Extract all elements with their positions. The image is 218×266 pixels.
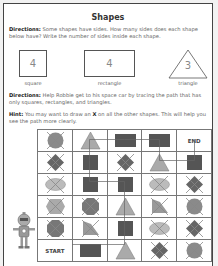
maze-cell-octagon-x[interactable] xyxy=(72,196,107,218)
maze-cell-square[interactable] xyxy=(72,174,107,196)
triangle-shape-icon xyxy=(108,240,143,261)
maze-cell-rectangle[interactable] xyxy=(72,240,107,262)
maze-cell-hexagon-x[interactable] xyxy=(38,196,73,218)
rectangle-sides: 4 xyxy=(106,58,112,69)
start-label: START xyxy=(38,240,72,261)
maze-cell-diamond-x[interactable] xyxy=(107,152,142,174)
diamond-shape-icon xyxy=(177,174,212,195)
circle-shape-icon xyxy=(177,240,212,261)
hint-label: Hint: xyxy=(9,111,23,117)
maze-row xyxy=(38,218,212,240)
square-answer-box[interactable]: 4 xyxy=(19,50,47,77)
diamond-shape-icon xyxy=(108,152,143,173)
directions-maze: Directions: Help Robbie get to his space… xyxy=(9,92,209,105)
maze-cell-diamond-x[interactable] xyxy=(142,240,177,262)
page-title: Shapes xyxy=(4,13,212,22)
maze-cell-circle-x[interactable] xyxy=(177,240,212,262)
diamond-shape-icon xyxy=(142,240,177,261)
maze-row xyxy=(38,174,212,196)
maze-row xyxy=(38,152,212,174)
end-label: END xyxy=(177,130,211,151)
square-shape-icon xyxy=(73,152,108,173)
maze-cell-rectangle[interactable] xyxy=(107,130,142,152)
hint-text: You may want to draw an xyxy=(23,111,92,117)
maze-cell-oval-x[interactable] xyxy=(38,174,73,196)
rectangle-answer-box[interactable]: 4 xyxy=(84,50,135,77)
maze-cell-square[interactable] xyxy=(72,152,107,174)
oval-shape-icon xyxy=(142,174,177,195)
maze-cell-circle-x[interactable] xyxy=(38,130,73,152)
maze-cell-oval-x[interactable] xyxy=(142,174,177,196)
square-shape-icon xyxy=(177,152,212,173)
rectangle-shape-icon xyxy=(73,240,108,261)
rectangle-label: rectangle xyxy=(84,80,135,86)
trapezoid-shape-icon xyxy=(142,196,177,217)
hexagon-shape-icon xyxy=(38,196,73,217)
diamond-shape-icon xyxy=(177,218,212,239)
square-shape-icon xyxy=(73,174,108,195)
triangle-sides: 3 xyxy=(168,60,208,71)
maze-cell-circle-x[interactable] xyxy=(177,196,212,218)
maze-row: END xyxy=(38,130,212,152)
triangle-shape-icon xyxy=(108,196,143,217)
maze-cell-triangle[interactable] xyxy=(72,130,107,152)
maze-cell-end[interactable]: END xyxy=(177,130,212,152)
maze-cell-diamond-x[interactable] xyxy=(177,218,212,240)
triangle-label: triangle xyxy=(168,80,208,86)
maze-cell-trapezoid-x[interactable] xyxy=(142,196,177,218)
maze-grid: ENDSTART xyxy=(37,129,212,255)
oval-shape-icon xyxy=(38,174,73,195)
maze-cell-triangle[interactable] xyxy=(142,152,177,174)
circle-shape-icon xyxy=(38,130,73,151)
directions-label: Directions: xyxy=(9,92,41,98)
square-label: square xyxy=(14,80,52,86)
maze-cell-start[interactable]: START xyxy=(38,240,73,262)
square-shape-icon xyxy=(108,218,143,239)
triangle-shape-icon xyxy=(73,130,108,151)
maze-row: START xyxy=(38,240,212,262)
maze-cell-rectangle[interactable] xyxy=(142,130,177,152)
maze-row xyxy=(38,196,212,218)
maze-cell-triangle[interactable] xyxy=(107,196,142,218)
robbie-robot-icon xyxy=(12,212,36,250)
maze-cell-octagon-x[interactable] xyxy=(38,218,73,240)
maze-cell-triangle[interactable] xyxy=(107,240,142,262)
worksheet-page: Shapes Directions: Some shapes have side… xyxy=(3,3,213,266)
square-sides: 4 xyxy=(30,58,36,69)
maze-cell-square[interactable] xyxy=(177,152,212,174)
trapezoid-shape-icon xyxy=(73,218,108,239)
directions-label: Directions: xyxy=(9,26,41,32)
maze-cell-square[interactable] xyxy=(107,218,142,240)
maze-cell-oval-x[interactable] xyxy=(142,218,177,240)
maze-cell-square[interactable] xyxy=(107,174,142,196)
diamond-shape-icon xyxy=(38,152,73,173)
triangle-shape-icon xyxy=(142,152,177,173)
rectangle-shape-icon xyxy=(108,130,143,151)
oval-shape-icon xyxy=(142,218,177,239)
rectangle-shape-icon xyxy=(142,130,177,151)
maze-cell-trapezoid-x[interactable] xyxy=(72,218,107,240)
hint: Hint: You may want to draw an X on all t… xyxy=(9,111,209,124)
square-shape-icon xyxy=(108,174,143,195)
directions-sides: Directions: Some shapes have sides. How … xyxy=(9,26,209,39)
maze-cell-diamond-x[interactable] xyxy=(177,174,212,196)
maze-cell-diamond-x[interactable] xyxy=(38,152,73,174)
octagon-shape-icon xyxy=(38,218,73,239)
octagon-shape-icon xyxy=(73,196,108,217)
circle-shape-icon xyxy=(177,196,212,217)
